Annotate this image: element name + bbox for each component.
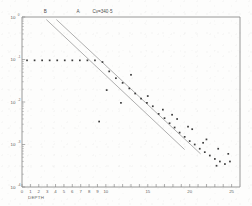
data-point bbox=[71, 60, 73, 62]
label-A: A bbox=[77, 9, 81, 14]
y-tick-label: 10-2 bbox=[11, 98, 21, 105]
data-point bbox=[79, 60, 81, 62]
x-tick-label: 6 bbox=[71, 189, 74, 194]
data-point bbox=[194, 144, 196, 146]
data-point bbox=[191, 128, 193, 130]
data-point bbox=[162, 109, 164, 111]
data-point bbox=[128, 88, 130, 90]
data-point bbox=[169, 122, 171, 124]
data-points bbox=[26, 60, 231, 167]
svg-text:10: 10 bbox=[11, 185, 16, 190]
semilog-scatter-chart: 10010-110-210-310-4 012345678910152025 B… bbox=[0, 0, 252, 206]
data-point bbox=[214, 158, 216, 160]
svg-text:-3: -3 bbox=[18, 140, 21, 144]
data-point bbox=[106, 89, 108, 91]
data-point bbox=[216, 165, 218, 167]
figure-canvas: 10010-110-210-310-4 012345678910152025 B… bbox=[0, 0, 252, 206]
y-tick-label: 10-1 bbox=[11, 55, 21, 62]
chart-annotations: BACv=340·5 bbox=[44, 9, 113, 14]
data-point bbox=[202, 142, 204, 144]
svg-text:0: 0 bbox=[18, 13, 20, 17]
data-point bbox=[227, 153, 229, 155]
data-point bbox=[102, 61, 104, 63]
data-point bbox=[122, 82, 124, 84]
data-point bbox=[64, 60, 66, 62]
fit-line-B bbox=[46, 20, 184, 150]
x-tick-label: 8 bbox=[88, 189, 91, 194]
data-point bbox=[152, 105, 154, 107]
data-point bbox=[41, 60, 43, 62]
y-axis-tick-labels: 10010-110-210-310-4 bbox=[11, 13, 21, 190]
y-tick-label: 10-3 bbox=[11, 140, 21, 147]
svg-text:10: 10 bbox=[11, 57, 16, 62]
x-tick-label: 4 bbox=[54, 189, 57, 194]
data-point bbox=[34, 60, 36, 62]
x-axis-tick-labels: 012345678910152025 bbox=[21, 189, 235, 194]
y-tick-label: 10-4 bbox=[11, 183, 21, 190]
svg-text:10: 10 bbox=[11, 100, 16, 105]
data-point bbox=[94, 60, 96, 62]
data-point bbox=[217, 148, 219, 150]
data-point bbox=[184, 136, 186, 138]
svg-text:10: 10 bbox=[11, 142, 16, 147]
data-point bbox=[120, 102, 122, 104]
data-point bbox=[164, 117, 166, 119]
y-axis-ticks bbox=[22, 17, 25, 187]
data-point bbox=[187, 126, 189, 128]
data-point bbox=[199, 148, 201, 150]
data-point bbox=[229, 161, 231, 163]
x-tick-label: 15 bbox=[145, 189, 150, 194]
x-tick-label: 1 bbox=[29, 189, 32, 194]
label-cv: Cv=340·5 bbox=[92, 9, 112, 14]
x-tick-label: 10 bbox=[103, 189, 108, 194]
svg-text:-4: -4 bbox=[18, 183, 21, 187]
x-tick-label: 3 bbox=[46, 189, 49, 194]
data-point bbox=[140, 98, 142, 100]
data-point bbox=[204, 151, 206, 153]
data-point bbox=[146, 102, 148, 104]
fit-line-A bbox=[56, 20, 200, 154]
data-point bbox=[189, 140, 191, 142]
x-tick-label: 7 bbox=[79, 189, 82, 194]
data-point bbox=[147, 95, 149, 97]
data-point bbox=[87, 60, 89, 62]
x-tick-label: 9 bbox=[96, 189, 99, 194]
data-point bbox=[56, 60, 58, 62]
fit-lines bbox=[46, 20, 200, 154]
data-point bbox=[49, 60, 51, 62]
data-point bbox=[224, 163, 226, 165]
data-point bbox=[176, 118, 178, 120]
chart-frame bbox=[22, 17, 240, 187]
data-point bbox=[98, 121, 100, 123]
data-point bbox=[130, 74, 132, 76]
data-point bbox=[219, 161, 221, 163]
data-point bbox=[134, 93, 136, 95]
data-point bbox=[115, 77, 117, 79]
x-tick-label: 2 bbox=[38, 189, 41, 194]
label-B: B bbox=[44, 9, 47, 14]
data-point bbox=[158, 113, 160, 115]
x-axis-title: DEPTH bbox=[28, 195, 44, 200]
svg-text:-2: -2 bbox=[18, 98, 21, 102]
svg-text:-1: -1 bbox=[18, 55, 21, 59]
data-point bbox=[26, 60, 28, 62]
data-point bbox=[174, 127, 176, 129]
x-tick-label: 20 bbox=[187, 189, 192, 194]
x-tick-label: 25 bbox=[229, 189, 234, 194]
y-tick-label: 100 bbox=[11, 13, 20, 20]
x-tick-label: 0 bbox=[21, 189, 24, 194]
data-point bbox=[108, 71, 110, 73]
data-point bbox=[171, 114, 173, 116]
svg-text:10: 10 bbox=[11, 15, 16, 20]
x-tick-label: 5 bbox=[63, 189, 66, 194]
data-point bbox=[209, 155, 211, 157]
data-point bbox=[206, 139, 208, 141]
data-point bbox=[179, 132, 181, 134]
